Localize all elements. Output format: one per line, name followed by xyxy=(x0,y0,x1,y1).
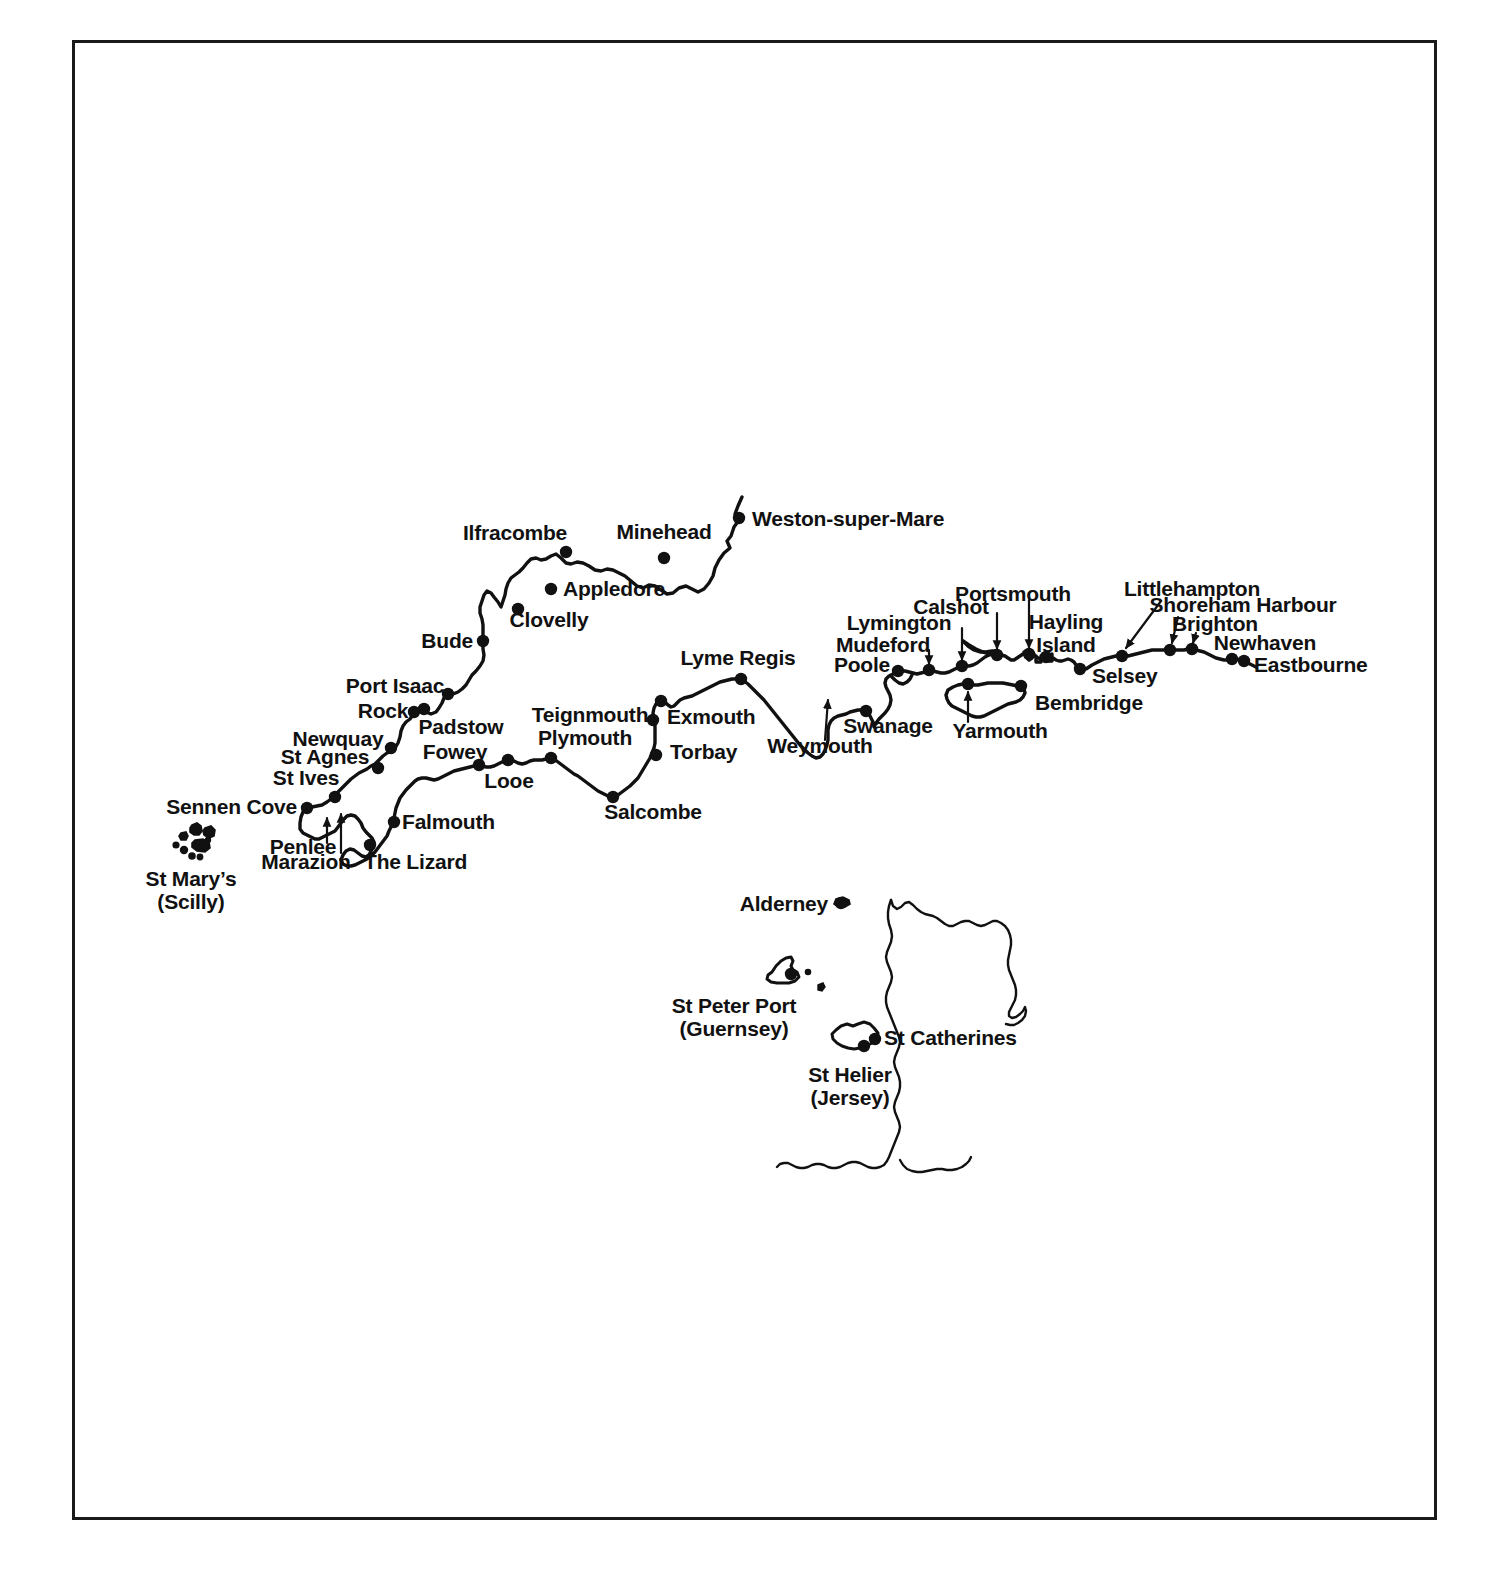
place-label: Weston-super-Mare xyxy=(752,508,944,530)
place-dot xyxy=(372,762,384,774)
place-label: Marazion xyxy=(261,851,350,873)
place-dot xyxy=(923,664,935,676)
place-label: Portsmouth xyxy=(955,583,1071,605)
place-dot xyxy=(1074,663,1086,675)
place-label: Falmouth xyxy=(402,811,495,833)
place-label: Fowey xyxy=(423,741,487,763)
place-dot xyxy=(301,802,313,814)
place-label: Clovelly xyxy=(510,609,589,631)
place-dot xyxy=(385,742,397,754)
place-dot xyxy=(858,1040,870,1052)
place-label: Poole xyxy=(834,654,890,676)
place-dot xyxy=(733,512,745,524)
place-label: Rock xyxy=(358,700,409,722)
place-dot xyxy=(835,897,847,909)
place-label: Minehead xyxy=(616,521,711,543)
place-label: St Catherines xyxy=(884,1027,1017,1049)
place-dot xyxy=(560,546,572,558)
place-dot xyxy=(892,665,904,677)
isle-of-wight xyxy=(946,683,1025,717)
place-dot xyxy=(502,754,514,766)
place-dot xyxy=(1116,650,1128,662)
place-dot xyxy=(869,1033,881,1045)
place-dot xyxy=(1164,644,1176,656)
place-dot xyxy=(735,673,747,685)
herm-sark-islets xyxy=(805,969,825,991)
place-dot xyxy=(545,583,557,595)
place-label: Weymouth xyxy=(767,735,872,757)
place-dot xyxy=(477,635,489,647)
place-dot xyxy=(329,791,341,803)
place-label: Eastbourne xyxy=(1254,654,1368,676)
place-label: The Lizard xyxy=(364,851,467,873)
place-dot xyxy=(1186,643,1198,655)
place-dot xyxy=(785,968,797,980)
place-label: Salcombe xyxy=(604,801,702,823)
place-label: Looe xyxy=(484,770,533,792)
place-dot xyxy=(991,649,1003,661)
place-label: Selsey xyxy=(1092,665,1157,687)
place-label: Yarmouth xyxy=(952,720,1047,742)
place-label: Lyme Regis xyxy=(680,647,795,669)
place-label: Hayling Island xyxy=(1029,610,1103,656)
place-label: Sennen Cove xyxy=(166,796,297,818)
place-dot xyxy=(658,552,670,564)
place-dot xyxy=(388,816,400,828)
place-dot xyxy=(545,752,557,764)
place-label: St Helier (Jersey) xyxy=(808,1063,891,1109)
place-label: Mudeford xyxy=(836,634,930,656)
place-label: St Mary’s (Scilly) xyxy=(146,867,237,913)
place-label: Exmouth xyxy=(667,706,755,728)
place-label: Bembridge xyxy=(1035,692,1143,714)
place-label: St Peter Port (Guernsey) xyxy=(672,994,797,1040)
place-dot xyxy=(956,660,968,672)
place-label: Plymouth xyxy=(538,727,632,749)
place-label: Torbay xyxy=(670,741,737,763)
place-label: Port Isaac xyxy=(346,675,444,697)
place-label: St Ives xyxy=(273,767,339,789)
place-label: Padstow xyxy=(419,716,504,738)
place-label: Teignmouth xyxy=(532,704,649,726)
place-dot xyxy=(650,749,662,761)
place-dot xyxy=(655,695,667,707)
isles-of-scilly xyxy=(173,823,215,860)
place-dot xyxy=(1226,653,1238,665)
place-dot xyxy=(1238,655,1250,667)
place-dot xyxy=(418,703,430,715)
place-label: Swanage xyxy=(843,715,933,737)
place-label: Appledore xyxy=(563,578,665,600)
place-label: Ilfracombe xyxy=(463,522,567,544)
place-label: Newhaven xyxy=(1214,632,1316,654)
place-dot xyxy=(1015,680,1027,692)
place-label: Alderney xyxy=(740,893,828,915)
place-dot xyxy=(962,678,974,690)
place-dot xyxy=(647,714,659,726)
place-label: Bude xyxy=(421,630,473,652)
map-canvas xyxy=(0,0,1504,1581)
settlement-dots xyxy=(301,512,1250,1052)
place-label: St Agnes xyxy=(281,746,370,768)
